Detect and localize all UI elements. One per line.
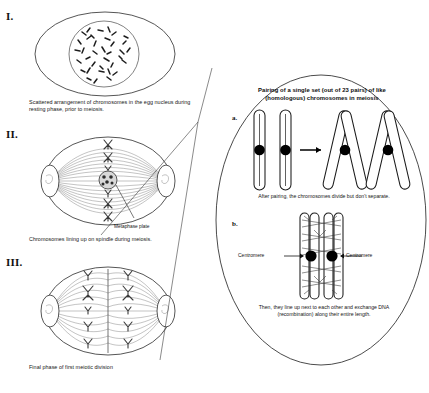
- magnifier-callout: Pairing of a single set (out of 23 pairs…: [214, 74, 428, 366]
- figure-canvas: I. Scattered arrangement of chromosomes …: [0, 0, 429, 393]
- panel-a-caption: After pairing, the chromosomes divide bu…: [234, 193, 414, 200]
- centromere-label-right: Centromere: [346, 252, 372, 258]
- x-chromosome-1: [322, 110, 368, 190]
- rod-chromosome-2: [280, 110, 291, 190]
- centromere-left-dot: [305, 250, 316, 261]
- panel-a-letter: a.: [232, 114, 237, 122]
- stage-numeral-2: II.: [6, 128, 18, 140]
- x-chromosome-2: [365, 110, 411, 190]
- transition-arrow: [300, 147, 321, 153]
- panel-b-letter: b.: [232, 220, 238, 228]
- centrosome-left: [41, 165, 59, 197]
- callout-title: Pairing of a single set (out of 23 pairs…: [238, 86, 406, 102]
- panel-b-caption: Then, they line up next to each other an…: [244, 304, 404, 318]
- centromere-label-left: Centromere: [238, 252, 264, 258]
- stage-numeral-1: I.: [6, 10, 13, 22]
- panel-a-illustration: [242, 106, 412, 194]
- stage-numeral-3: III.: [6, 256, 22, 268]
- rod-chromosome-1: [254, 110, 265, 190]
- stage-3-caption: Final phase of first meiotic division: [29, 364, 204, 371]
- centrosome-left-3: [41, 295, 59, 327]
- panel-b-illustration: [292, 210, 354, 302]
- centromere-right-dot: [326, 250, 337, 261]
